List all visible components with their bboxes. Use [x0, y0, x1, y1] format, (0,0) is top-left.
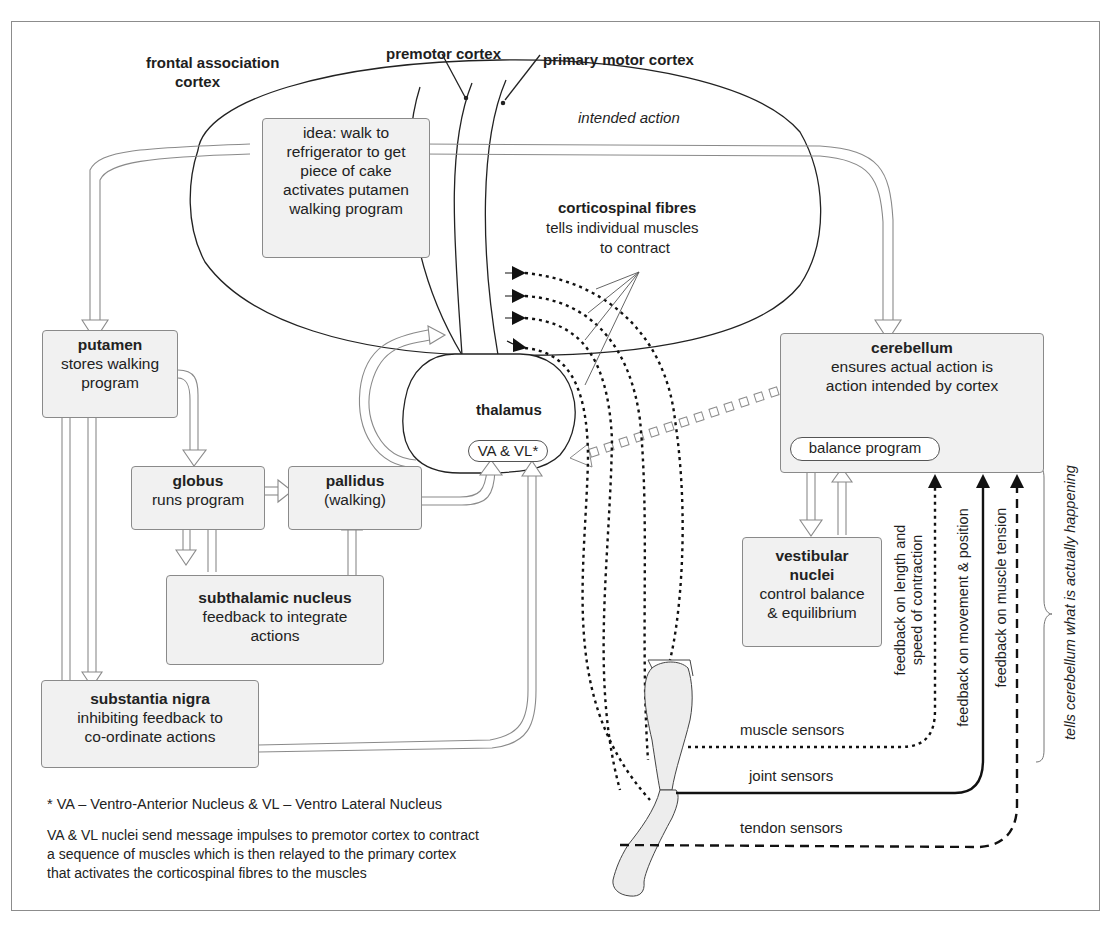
- idea-box: idea: walk to refrigerator to get piece …: [262, 118, 430, 258]
- pallidus-line: (walking): [289, 490, 421, 509]
- footnote-line: that activates the corticospinal fibres …: [47, 864, 479, 883]
- frontal-association-label-1: frontal association: [146, 53, 279, 72]
- cerebellum-line: ensures actual action is: [781, 357, 1043, 376]
- idea-line: refrigerator to get: [263, 142, 429, 161]
- joint-feedback-arrowhead: [976, 474, 990, 488]
- putamen-title: putamen: [43, 335, 177, 354]
- idea-line: walking program: [263, 199, 429, 218]
- intended-action-label: intended action: [578, 108, 680, 127]
- primary-motor-cortex-label: primary motor cortex: [543, 50, 694, 69]
- putamen-line: program: [43, 373, 177, 392]
- corticospinal-pointers: [585, 272, 639, 385]
- corticospinal-title: corticospinal fibres: [558, 198, 696, 217]
- subthalamic-box: subthalamic nucleus feedback to integrat…: [166, 575, 384, 665]
- tendon-feedback-arrowhead: [1010, 474, 1024, 488]
- thalamus-label: thalamus: [476, 400, 542, 419]
- vestibular-title: nuclei: [743, 565, 881, 584]
- substantia-title: substantia nigra: [42, 689, 258, 708]
- vestibular-title: vestibular: [743, 546, 881, 565]
- muscle-sensors-label: muscle sensors: [740, 720, 844, 739]
- va-vl-nucleus: VA & VL*: [468, 440, 548, 462]
- joint-sensors-label: joint sensors: [749, 766, 833, 785]
- corticospinal-arrowheads: [505, 266, 527, 352]
- feedback-brace: [1036, 466, 1052, 762]
- pallidus-box: pallidus (walking): [288, 466, 422, 530]
- cerebellum-line: action intended by cortex: [781, 376, 1043, 395]
- putamen-line: stores walking: [43, 354, 177, 373]
- footnote-explanation: VA & VL nuclei send message impulses to …: [47, 826, 479, 883]
- globus-line: runs program: [132, 490, 264, 509]
- feedback-length-line: feedback on length and: [892, 500, 909, 700]
- feedback-length-label: feedback on length and speed of contract…: [892, 500, 926, 700]
- feedback-tension-label: feedback on muscle tension: [993, 495, 1010, 700]
- balance-program: balance program: [790, 437, 940, 461]
- frontal-association-label-2: cortex: [175, 72, 220, 91]
- subthalamic-line: feedback to integrate: [167, 607, 383, 626]
- putamen-box: putamen stores walking program: [42, 330, 178, 418]
- vestibular-line: & equilibrium: [743, 603, 881, 622]
- cerebellum-title: cerebellum: [781, 338, 1043, 357]
- feedback-length-line: speed of contraction: [909, 500, 926, 700]
- tendon-sensors-label: tendon sensors: [740, 818, 843, 837]
- vestibular-line: control balance: [743, 584, 881, 603]
- idea-line: piece of cake: [263, 161, 429, 180]
- vestibular-nuclei-box: vestibular nuclei control balance & equi…: [742, 537, 882, 647]
- idea-line: activates putamen: [263, 180, 429, 199]
- substantia-line: co-ordinate actions: [42, 727, 258, 746]
- substantia-line: inhibiting feedback to: [42, 708, 258, 727]
- corticospinal-desc-1: tells individual muscles: [546, 218, 699, 237]
- leg-illustration: [613, 660, 693, 896]
- subthalamic-line: actions: [167, 626, 383, 645]
- idea-line: idea: walk to: [263, 123, 429, 142]
- footnote-line: a sequence of muscles which is then rela…: [47, 845, 479, 864]
- cerebellum-to-thalamus-arrow: [570, 387, 779, 467]
- globus-box: globus runs program: [131, 466, 265, 530]
- globus-title: globus: [132, 471, 264, 490]
- footnote-definition: * VA – Ventro-Anterior Nucleus & VL – Ve…: [47, 794, 442, 814]
- corticospinal-desc-2: to contract: [600, 238, 670, 257]
- pallidus-title: pallidus: [289, 471, 421, 490]
- feedback-movement-label: feedback on movement & position: [955, 495, 972, 740]
- muscle-feedback-arrowhead: [928, 474, 942, 488]
- footnote-line: VA & VL nuclei send message impulses to …: [47, 826, 479, 845]
- subthalamic-title: subthalamic nucleus: [167, 588, 383, 607]
- substantia-nigra-box: substantia nigra inhibiting feedback to …: [41, 680, 259, 768]
- tells-cerebellum-label: tells cerebellum what is actually happen…: [1062, 435, 1079, 770]
- premotor-cortex-label: premotor cortex: [386, 44, 501, 63]
